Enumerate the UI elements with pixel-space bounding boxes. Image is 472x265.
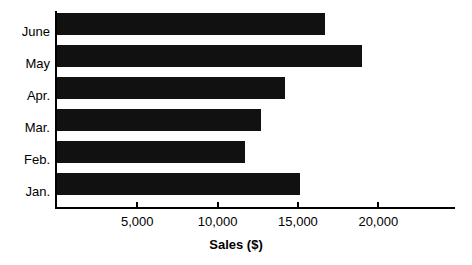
bar-chart: June May Apr. Mar. Feb. Jan. 5,000 10,00… — [0, 0, 472, 265]
tick-label-10000: 10,000 — [183, 215, 253, 229]
tick-label-20000: 20,000 — [343, 215, 413, 229]
tick-mark-15000 — [297, 202, 299, 209]
tick-label-5000: 5,000 — [102, 215, 172, 229]
tick-mark-20000 — [377, 202, 379, 209]
x-axis-title: Sales ($) — [56, 238, 416, 252]
tick-mark-5000 — [136, 202, 138, 209]
x-axis-ticks: 5,000 10,000 15,000 20,000 — [0, 0, 472, 265]
tick-label-15000: 15,000 — [263, 215, 333, 229]
tick-mark-10000 — [217, 202, 219, 209]
